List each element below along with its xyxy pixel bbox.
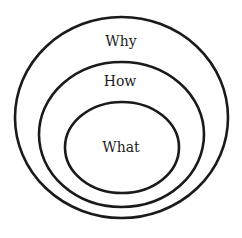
label-why: Why — [105, 34, 136, 48]
label-what: What — [102, 140, 139, 154]
label-how: How — [104, 74, 137, 88]
